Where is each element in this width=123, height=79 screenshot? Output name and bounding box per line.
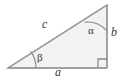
angle-label-alpha: α [88,25,94,36]
side-label-hypotenuse: c [42,18,47,30]
angle-label-beta: β [37,52,43,63]
right-triangle-diagram: c a b α β [0,0,123,79]
side-label-base: a [55,66,61,78]
triangle-graphic [0,0,123,79]
side-label-vertical: b [111,26,117,38]
